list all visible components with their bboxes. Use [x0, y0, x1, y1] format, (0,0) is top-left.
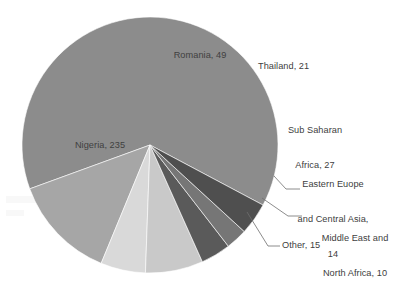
slice-label-romania: Romania, 49: [155, 50, 245, 62]
slice-label-thailand: Thailand, 21: [258, 61, 353, 73]
slice-label-line: Sub Saharan: [272, 125, 358, 137]
slice-label-other: Other, 15: [282, 240, 362, 252]
slice-label-line: Eastern Euope: [281, 179, 385, 191]
slice-label-nigeria: Nigeria, 235: [50, 140, 150, 152]
slice-label-line: North Africa, 10: [303, 268, 407, 280]
pie-chart: Nigeria, 235 Romania, 49 Thailand, 21 Su…: [0, 0, 415, 286]
